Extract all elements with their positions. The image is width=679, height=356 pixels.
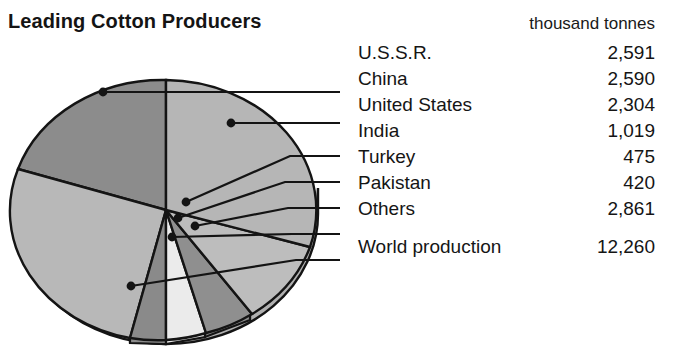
cotton-producers-pie-figure: Leading Cotton Producers [0, 0, 679, 356]
pie-chart-graphic [0, 22, 340, 356]
leader-dot-turkey [191, 222, 200, 231]
legend-value-india: 1,019 [607, 120, 655, 142]
legend-label-turkey: Turkey [358, 146, 415, 168]
legend-table: thousand tonnes U.S.S.R. 2,591 China 2,5… [340, 8, 672, 278]
legend-row-united-states: United States 2,304 [340, 94, 672, 120]
leader-dot-ussr [99, 88, 108, 97]
legend-row-turkey: Turkey 475 [340, 146, 672, 172]
legend-units-header: thousand tonnes [529, 14, 655, 34]
legend-value-turkey: 475 [623, 146, 655, 168]
pie-top-face [10, 80, 316, 340]
legend-value-china: 2,590 [607, 68, 655, 90]
legend-label-united-states: United States [358, 94, 472, 116]
legend-label-pakistan: Pakistan [358, 172, 431, 194]
leader-dot-india [174, 214, 183, 223]
legend-row-india: India 1,019 [340, 120, 672, 146]
legend-value-pakistan: 420 [623, 172, 655, 194]
legend-value-others: 2,861 [607, 198, 655, 220]
legend-label-ussr: U.S.S.R. [358, 42, 432, 64]
legend-row-china: China 2,590 [340, 68, 672, 94]
world-production-value: 12,260 [597, 236, 655, 258]
legend-value-united-states: 2,304 [607, 94, 655, 116]
legend-label-india: India [358, 120, 399, 142]
legend-value-ussr: 2,591 [607, 42, 655, 64]
leader-dot-china [227, 119, 236, 128]
leader-dot-pakistan [168, 233, 177, 242]
legend-row-others: Others 2,861 [340, 198, 672, 224]
leader-dot-others [127, 282, 136, 291]
legend-row-world-production: World production 12,260 [340, 236, 672, 262]
world-production-label: World production [358, 236, 501, 258]
leader-dot-united-states [182, 198, 191, 207]
legend-row-pakistan: Pakistan 420 [340, 172, 672, 198]
legend-label-china: China [358, 68, 408, 90]
legend-label-others: Others [358, 198, 415, 220]
legend-row-ussr: U.S.S.R. 2,591 [340, 42, 672, 68]
